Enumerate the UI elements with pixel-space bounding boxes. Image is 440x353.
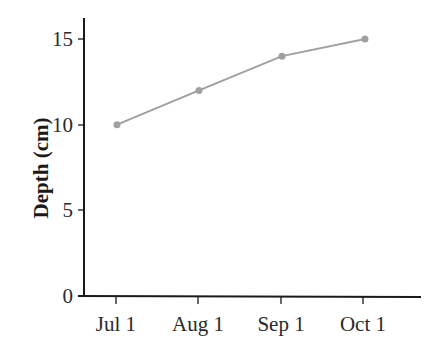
data-point — [196, 87, 203, 94]
x-tick-label: Jul 1 — [96, 312, 136, 336]
x-ticks: Jul 1 Aug 1 Sep 1 Oct 1 — [96, 297, 386, 336]
data-point — [362, 36, 369, 43]
x-tick-label: Oct 1 — [340, 312, 386, 336]
y-tick-label: 0 — [63, 284, 74, 308]
line-chart: 15 10 5 0 Jul 1 Aug 1 Sep 1 Oct 1 Depth … — [0, 0, 440, 353]
y-tick-label: 10 — [52, 113, 73, 137]
y-tick-label: 15 — [52, 27, 73, 51]
y-axis-label: Depth (cm) — [29, 118, 53, 219]
depth-series — [114, 36, 369, 129]
y-ticks: 15 10 5 0 — [52, 27, 84, 308]
y-tick-label: 5 — [63, 198, 74, 222]
x-tick-label: Aug 1 — [172, 312, 224, 336]
series-line — [117, 39, 365, 125]
data-point — [279, 53, 286, 60]
data-point — [114, 121, 121, 128]
x-tick-label: Sep 1 — [257, 312, 304, 336]
x-axis — [78, 296, 421, 297]
